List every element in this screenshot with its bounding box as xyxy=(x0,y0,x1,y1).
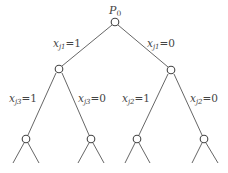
edge-label-xj3-1: xj3=1 xyxy=(9,92,37,106)
leaf-edge xyxy=(139,143,150,163)
leaf-edge xyxy=(93,143,104,163)
leaf-edge xyxy=(78,143,89,163)
branching-tree-diagram: P0 xj1=1 xj1=0 xj3=1 xj3=0 xj2=1 xj2=0 xyxy=(0,0,228,173)
node-level2-1 xyxy=(22,135,30,143)
edge-label-xj1-0: xj1=0 xyxy=(147,37,175,51)
edge-label-xj3-0: xj3=0 xyxy=(78,92,106,106)
node-level1-left xyxy=(55,65,63,73)
leaf-edge xyxy=(192,143,202,163)
edge-label-xj2-1: xj2=1 xyxy=(122,92,150,106)
edge-l1-left-left xyxy=(28,73,56,135)
root-node xyxy=(111,18,119,26)
node-level2-3 xyxy=(133,135,141,143)
node-level2-2 xyxy=(87,135,95,143)
leaf-edge xyxy=(28,143,39,163)
edge-label-xj2-0: xj2=0 xyxy=(190,92,218,106)
edge-label-xj1-1: xj1=1 xyxy=(53,37,81,51)
leaf-edge xyxy=(13,143,24,163)
node-level2-4 xyxy=(200,135,208,143)
leaf-edge xyxy=(125,143,135,163)
node-level1-right xyxy=(167,66,175,74)
leaf-edge xyxy=(206,143,218,163)
edge-l1-right-left xyxy=(139,74,168,135)
root-label: P0 xyxy=(108,4,121,18)
